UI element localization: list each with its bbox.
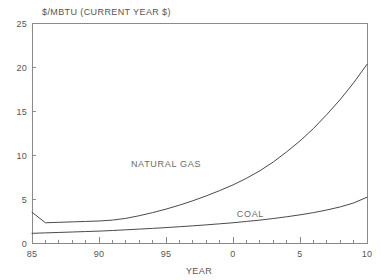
- y-tick-label: 10: [16, 151, 27, 161]
- x-axis-minor-ticks: [45, 240, 353, 244]
- y-tick-label: 25: [16, 19, 27, 29]
- x-tick-label: 95: [161, 249, 172, 259]
- y-tick-label: 15: [16, 107, 27, 117]
- chart-title: $/MBTU (CURRENT YEAR $): [42, 7, 171, 17]
- y-tick-label: 20: [16, 63, 27, 73]
- series-line-natural-gas: [32, 64, 367, 222]
- y-tick-label: 0: [22, 239, 27, 249]
- plot-frame: [32, 23, 367, 243]
- plot-border: [32, 23, 367, 243]
- x-axis-label: YEAR: [186, 266, 212, 276]
- y-axis-ticks: 0510152025: [16, 19, 36, 249]
- series-annotations: NATURAL GASCOAL: [131, 159, 264, 219]
- x-tick-label: 0: [230, 249, 235, 259]
- x-tick-label: 90: [94, 249, 105, 259]
- chart-figure: $/MBTU (CURRENT YEAR $) 0510152025 85909…: [0, 0, 381, 280]
- x-tick-label: 5: [297, 249, 302, 259]
- series-label-coal: COAL: [237, 209, 264, 219]
- x-axis-ticks: 8590950510: [27, 237, 373, 259]
- y-tick-label: 5: [22, 195, 27, 205]
- x-tick-label: 85: [27, 249, 38, 259]
- data-series-group: [32, 64, 367, 233]
- x-tick-label: 10: [362, 249, 373, 259]
- series-label-natural-gas: NATURAL GAS: [131, 159, 201, 169]
- line-chart: $/MBTU (CURRENT YEAR $) 0510152025 85909…: [0, 0, 381, 280]
- series-line-coal: [32, 197, 367, 233]
